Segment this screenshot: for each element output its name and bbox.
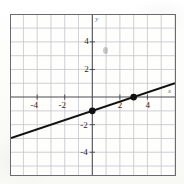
y-tick-label: -2: [80, 121, 88, 130]
y-tick-label: 4: [84, 37, 89, 46]
line-and-points: [11, 15, 175, 175]
y-axis-label: y: [95, 16, 98, 23]
x-tick-label: 2: [118, 101, 123, 110]
x-tick-label: -2: [58, 101, 66, 110]
plot-area: [10, 14, 176, 176]
graph-figure: -4-22442-2-4 yx: [0, 0, 184, 184]
x-tick-label: -4: [31, 101, 39, 110]
y-tick-label: 2: [84, 65, 89, 74]
x-tick-label: 4: [146, 101, 151, 110]
x-axis-label: x: [168, 88, 171, 95]
y-tick-label: -4: [80, 148, 88, 157]
